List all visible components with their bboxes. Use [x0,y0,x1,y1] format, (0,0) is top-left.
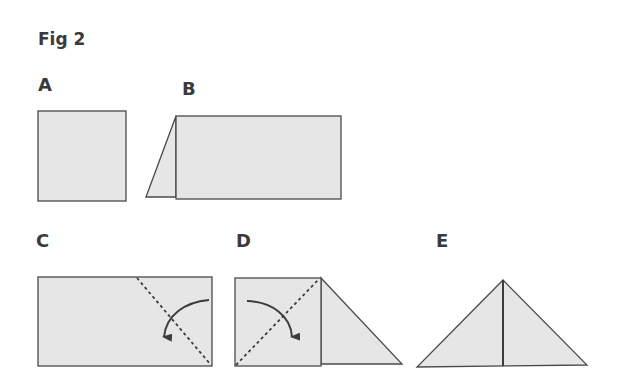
step-b-flap [146,116,176,197]
step-b-shape [146,116,341,199]
step-a-square [38,111,126,201]
fold-diagram [0,0,618,380]
step-d-shape [235,278,402,366]
step-d-flap [321,278,402,364]
step-c-shape [38,277,212,366]
step-e-triangle [417,280,587,367]
step-b-rect [176,116,341,199]
